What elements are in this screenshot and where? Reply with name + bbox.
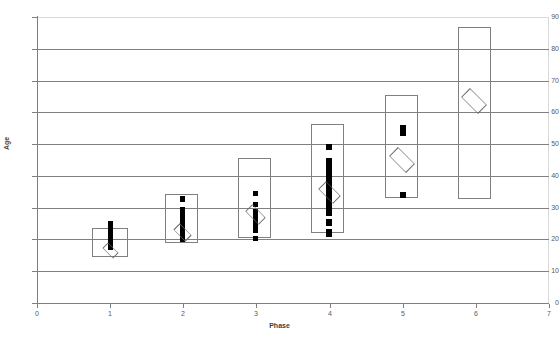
y-axis-tick	[32, 176, 37, 177]
x-axis-tick	[330, 304, 331, 308]
x-axis-tick	[549, 304, 550, 308]
x-axis-tick	[476, 304, 477, 308]
y-axis-tick-label: 40	[533, 172, 559, 180]
y-axis-title: Age	[3, 137, 10, 150]
data-point-marker	[253, 236, 258, 241]
x-axis-tick	[183, 304, 184, 308]
box-plot-chart: 0102030405060708090 01234567 Age Phase	[0, 0, 559, 337]
y-axis-tick	[32, 81, 37, 82]
y-axis-tick	[32, 112, 37, 113]
y-axis-tick-label: 50	[533, 140, 559, 148]
y-axis-tick-label: 70	[533, 77, 559, 85]
x-axis-tick-label: 3	[246, 310, 266, 318]
y-axis-tick-label: 80	[533, 45, 559, 53]
x-axis-tick	[37, 304, 38, 308]
gridline	[37, 208, 549, 209]
data-point-marker	[400, 125, 406, 136]
x-axis-tick-label: 4	[320, 310, 340, 318]
data-point-marker	[108, 221, 113, 228]
x-axis-tick-label: 7	[539, 310, 559, 318]
x-axis-tick	[403, 304, 404, 308]
y-axis-tick-label: 30	[533, 204, 559, 212]
data-point-marker	[326, 219, 332, 226]
data-point-marker	[180, 196, 185, 202]
x-axis-tick	[256, 304, 257, 308]
gridline	[37, 271, 549, 272]
y-axis-tick	[32, 239, 37, 240]
y-axis-tick-label: 90	[533, 13, 559, 21]
y-axis-tick-label: 60	[533, 108, 559, 116]
y-axis-tick	[32, 208, 37, 209]
box-range-rect	[385, 95, 418, 198]
y-axis-tick-label: 10	[533, 267, 559, 275]
x-axis-tick-label: 6	[466, 310, 486, 318]
data-point-marker	[400, 192, 406, 198]
x-axis-tick	[110, 304, 111, 308]
y-axis-line	[37, 16, 38, 304]
x-axis-tick-label: 2	[173, 310, 193, 318]
x-axis-title: Phase	[0, 322, 559, 329]
x-axis-tick-label: 0	[27, 310, 47, 318]
y-axis-tick	[32, 271, 37, 272]
y-axis-tick-label: 20	[533, 235, 559, 243]
y-axis-tick-label: 0	[533, 299, 559, 307]
x-axis-tick-label: 5	[393, 310, 413, 318]
y-axis-tick	[32, 17, 37, 18]
x-axis-tick-label: 1	[100, 310, 120, 318]
y-axis-tick	[32, 49, 37, 50]
y-axis-tick	[32, 144, 37, 145]
data-point-marker	[326, 144, 332, 150]
data-point-marker	[326, 229, 332, 237]
box-range-rect	[458, 27, 491, 199]
x-axis-line	[37, 303, 549, 304]
data-point-marker	[253, 191, 258, 196]
